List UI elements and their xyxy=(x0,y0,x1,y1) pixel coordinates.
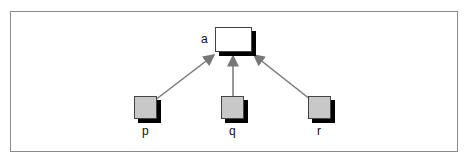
node-r xyxy=(308,96,331,119)
node-q-label: q xyxy=(229,124,236,138)
node-r-label: r xyxy=(317,124,321,138)
node-a-label: a xyxy=(201,32,208,46)
node-a xyxy=(215,27,252,52)
node-p-label: p xyxy=(142,124,149,138)
node-q xyxy=(221,96,244,119)
node-p xyxy=(134,96,157,119)
